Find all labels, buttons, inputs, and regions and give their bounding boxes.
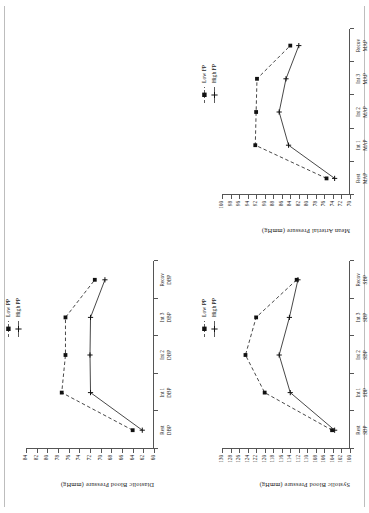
dbp-marker-plus bbox=[102, 277, 107, 282]
dbp-legend-label-low: Low PP bbox=[4, 299, 14, 317]
sbp-y-tick-label: 104 bbox=[330, 455, 335, 463]
dbp-x-tick-label: Int 3DBP bbox=[159, 312, 172, 322]
sbp-y-tick bbox=[307, 449, 308, 453]
sbp-y-tick bbox=[222, 449, 223, 453]
dbp-y-tick bbox=[90, 449, 91, 453]
map-y-tick bbox=[273, 195, 274, 199]
dbp-y-tick bbox=[154, 449, 155, 453]
dbp-y-tick bbox=[37, 449, 38, 453]
dbp-y-tick-label: 66 bbox=[119, 455, 124, 460]
map-y-tick-label: 76 bbox=[322, 201, 327, 206]
dbp-x-tick-label: RecovDBP bbox=[159, 273, 172, 286]
map-y-tick-label: 80 bbox=[305, 201, 310, 206]
map-y-tick-label: 82 bbox=[296, 201, 301, 206]
sbp-y-tick bbox=[248, 449, 249, 453]
map-y-tick-label: 92 bbox=[254, 201, 259, 206]
dbp-y-tick bbox=[47, 449, 48, 453]
legend-solid-plus-icon bbox=[211, 87, 218, 103]
legend-dashed-square-icon bbox=[201, 87, 208, 103]
dbp-y-tick-label: 74 bbox=[77, 455, 82, 460]
dbp-y-tick-label: 84 bbox=[23, 455, 28, 460]
map-legend: Low FP High FP bbox=[200, 64, 219, 103]
sbp-legend: Low PP High PP bbox=[200, 298, 219, 337]
sbp-y-tick-label: 110 bbox=[305, 455, 310, 463]
sbp-plot-area: 1301281261241221201181161141121101081061… bbox=[222, 261, 350, 449]
dbp-y-tick-label: 60 bbox=[151, 455, 156, 460]
sbp-y-tick-label: 120 bbox=[262, 455, 267, 463]
map-x-tick bbox=[350, 128, 354, 129]
sbp-y-tick bbox=[350, 449, 351, 453]
map-x-tick-label: RecovMAP bbox=[355, 39, 368, 52]
sbp-y-tick-label: 102 bbox=[339, 455, 344, 463]
map-y-tick bbox=[282, 195, 283, 199]
dbp-y-tick-label: 64 bbox=[130, 455, 135, 460]
map-line-high-fp bbox=[279, 46, 334, 179]
map-marker-plus bbox=[277, 109, 282, 114]
sbp-y-tick-label: 106 bbox=[322, 455, 327, 463]
map-y-tick bbox=[316, 195, 317, 199]
map-marker-square bbox=[325, 177, 329, 181]
page-border-top bbox=[4, 6, 5, 507]
sbp-x-tick-label: Int 3SBP bbox=[355, 313, 368, 323]
map-y-tick bbox=[324, 195, 325, 199]
sbp-y-tick-label: 100 bbox=[347, 455, 352, 463]
sbp-x-tick-label: Int 1SBP bbox=[355, 388, 368, 398]
sbp-y-tick-label: 108 bbox=[313, 455, 318, 463]
map-y-tick bbox=[341, 195, 342, 199]
map-y-tick bbox=[248, 195, 249, 199]
sbp-y-tick bbox=[299, 449, 300, 453]
sbp-y-tick-label: 122 bbox=[254, 455, 259, 463]
sbp-x-tick bbox=[350, 298, 354, 299]
dbp-y-tick bbox=[122, 449, 123, 453]
dbp-y-tick bbox=[26, 449, 27, 453]
dbp-x-tick bbox=[154, 373, 158, 374]
sbp-y-tick bbox=[265, 449, 266, 453]
dbp-y-tick bbox=[79, 449, 80, 453]
sbp-x-tick-label: RecovSBP bbox=[355, 273, 368, 286]
sbp-marker-plus bbox=[277, 352, 282, 357]
map-x-tick bbox=[350, 61, 354, 62]
sbp-y-tick bbox=[231, 449, 232, 453]
dbp-y-tick bbox=[143, 449, 144, 453]
map-marker-square bbox=[255, 77, 259, 81]
dbp-marker-square bbox=[64, 316, 68, 320]
map-y-tick bbox=[290, 195, 291, 199]
sbp-legend-item-low[interactable]: Low PP bbox=[200, 298, 210, 337]
sbp-marker-square bbox=[263, 391, 267, 395]
sbp-y-tick bbox=[239, 449, 240, 453]
dbp-legend-label-high: High PP bbox=[14, 298, 24, 317]
map-legend-item-high[interactable]: High FP bbox=[210, 64, 220, 103]
sbp-y-tick bbox=[256, 449, 257, 453]
sbp-y-tick-label: 130 bbox=[219, 455, 224, 463]
dbp-marker-plus bbox=[88, 315, 93, 320]
dbp-legend-item-low[interactable]: Low PP bbox=[4, 298, 14, 337]
map-legend-item-low[interactable]: Low FP bbox=[200, 64, 210, 103]
dbp-y-tick-label: 82 bbox=[34, 455, 39, 460]
sbp-x-tick bbox=[350, 335, 354, 336]
map-y-tick-label: 100 bbox=[219, 201, 224, 209]
map-x-tick-label: Int 3MAP bbox=[355, 73, 368, 84]
map-y-tick-label: 96 bbox=[236, 201, 241, 206]
sbp-y-tick bbox=[316, 449, 317, 453]
legend-solid-plus-icon bbox=[15, 321, 22, 337]
map-plot-area: 100989694929088868482807876747270 RestMA… bbox=[222, 29, 350, 195]
map-marker-plus bbox=[283, 76, 288, 81]
dbp-x-tick-label: Int 2DBP bbox=[159, 350, 172, 360]
dbp-legend-item-high[interactable]: High PP bbox=[14, 298, 24, 337]
sbp-y-tick bbox=[273, 449, 274, 453]
map-x-tick bbox=[350, 94, 354, 95]
dbp-x-tick bbox=[154, 260, 158, 261]
legend-dashed-square-icon bbox=[5, 321, 12, 337]
map-marker-square bbox=[254, 110, 258, 114]
dbp-x-tick-label: RestDBP bbox=[159, 425, 172, 435]
dbp-marker-square bbox=[60, 391, 64, 395]
sbp-legend-item-high[interactable]: High PP bbox=[210, 298, 220, 337]
chart-map: Mean Arterial Pressure (mmHg) 1009896949… bbox=[222, 29, 350, 195]
map-y-tick-label: 90 bbox=[262, 201, 267, 206]
map-y-tick bbox=[299, 195, 300, 199]
map-y-tick bbox=[333, 195, 334, 199]
dbp-legend: Low PP High PP bbox=[4, 298, 23, 337]
sbp-x-tick bbox=[350, 373, 354, 374]
map-x-tick-label: RestMAP bbox=[355, 173, 368, 184]
map-x-tick bbox=[350, 28, 354, 29]
